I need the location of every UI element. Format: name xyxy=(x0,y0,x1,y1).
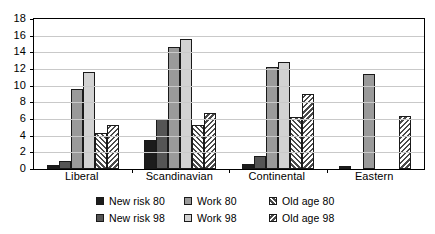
gridline xyxy=(34,69,424,70)
bar-newrisk80 xyxy=(47,165,59,169)
x-axis-label: Liberal xyxy=(33,170,131,182)
bar-newrisk80 xyxy=(339,166,351,169)
bar-set xyxy=(144,19,216,169)
legend-label: New risk 98 xyxy=(109,212,165,224)
bar-work80 xyxy=(168,47,180,169)
x-axis-label: Eastern xyxy=(326,170,424,182)
bar-set xyxy=(242,19,314,169)
y-tick-label: 2 xyxy=(20,146,26,157)
bar-oldage98 xyxy=(204,113,216,169)
bar-oldage98 xyxy=(399,116,411,169)
gridline xyxy=(34,52,424,53)
y-tick-label: 0 xyxy=(20,163,26,174)
legend-label: Work 80 xyxy=(197,195,237,207)
legend-swatch-icon xyxy=(184,197,192,205)
legend-label: Work 98 xyxy=(197,212,237,224)
legend-item-newrisk98[interactable]: New risk 98 xyxy=(96,212,184,224)
y-tickmark xyxy=(30,52,34,53)
bar-set xyxy=(339,19,411,169)
y-tickmark xyxy=(30,69,34,70)
bar-work80 xyxy=(363,74,375,169)
legend-item-work98[interactable]: Work 98 xyxy=(184,212,269,224)
legend-label: Old age 80 xyxy=(282,195,334,207)
bar-group xyxy=(132,19,230,169)
gridline xyxy=(34,86,424,87)
bar-group xyxy=(229,19,327,169)
legend-swatch-icon xyxy=(184,214,192,222)
y-tickmark xyxy=(30,152,34,153)
plot-area xyxy=(33,18,425,170)
bar-work98 xyxy=(180,39,192,169)
bar-oldage80 xyxy=(290,117,302,170)
legend-item-oldage80[interactable]: Old age 80 xyxy=(269,195,359,207)
plot-wrapper: 024681012141618 LiberalScandinavianConti… xyxy=(0,0,435,186)
bar-newrisk80 xyxy=(144,140,156,169)
y-tickmark xyxy=(30,19,34,20)
bar-work98 xyxy=(83,72,95,169)
legend-swatch-icon xyxy=(96,214,104,222)
y-tick-label: 12 xyxy=(14,63,26,74)
bar-newrisk98 xyxy=(254,156,266,169)
y-tickmark xyxy=(30,86,34,87)
x-axis-label: Continental xyxy=(228,170,326,182)
y-tick-label: 6 xyxy=(20,113,26,124)
legend-swatch-icon xyxy=(96,197,104,205)
chart-legend: New risk 80Work 80Old age 80New risk 98W… xyxy=(96,192,356,226)
bar-chart: 024681012141618 LiberalScandinavianConti… xyxy=(0,0,435,234)
bar-oldage80 xyxy=(192,125,204,169)
legend-item-oldage98[interactable]: Old age 98 xyxy=(269,212,359,224)
bar-newrisk98 xyxy=(59,161,71,169)
y-axis: 024681012141618 xyxy=(0,12,30,168)
y-tickmark xyxy=(30,119,34,120)
bar-group xyxy=(34,19,132,169)
y-tick-label: 4 xyxy=(20,129,26,140)
y-tick-label: 8 xyxy=(20,96,26,107)
y-tick-label: 18 xyxy=(14,13,26,24)
y-tickmark xyxy=(30,102,34,103)
y-tickmark xyxy=(30,36,34,37)
bar-newrisk98 xyxy=(156,119,168,169)
legend-item-work80[interactable]: Work 80 xyxy=(184,195,269,207)
legend-label: New risk 80 xyxy=(109,195,165,207)
bar-oldage98 xyxy=(302,94,314,169)
bar-newrisk80 xyxy=(242,164,254,169)
x-axis-label: Scandinavian xyxy=(131,170,229,182)
legend-label: Old age 98 xyxy=(282,212,334,224)
y-tick-label: 10 xyxy=(14,79,26,90)
bar-set xyxy=(47,19,119,169)
bar-group xyxy=(327,19,425,169)
bar-oldage98 xyxy=(107,125,119,169)
y-tickmark xyxy=(30,136,34,137)
y-tick-label: 14 xyxy=(14,46,26,57)
bar-oldage80 xyxy=(95,133,107,169)
y-tick-label: 16 xyxy=(14,29,26,40)
legend-item-newrisk80[interactable]: New risk 80 xyxy=(96,195,184,207)
bar-groups xyxy=(34,19,424,169)
gridline xyxy=(34,152,424,153)
gridline xyxy=(34,119,424,120)
legend-swatch-icon xyxy=(269,197,277,205)
x-axis: LiberalScandinavianContinentalEastern xyxy=(33,170,423,182)
gridline xyxy=(34,136,424,137)
gridline xyxy=(34,36,424,37)
gridline xyxy=(34,102,424,103)
legend-swatch-icon xyxy=(269,214,277,222)
bar-work80 xyxy=(71,89,83,169)
